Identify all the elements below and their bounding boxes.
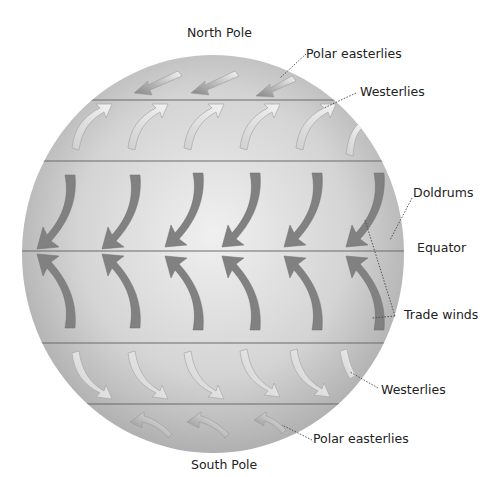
- wind-belts-diagram: [0, 0, 494, 477]
- doldrums-label: Doldrums: [413, 187, 473, 200]
- north-pole-label: North Pole: [187, 27, 252, 40]
- westerlies-north-label: Westerlies: [360, 86, 425, 99]
- polar-easterlies-north-label: Polar easterlies: [306, 48, 402, 61]
- equator-label: Equator: [417, 242, 466, 255]
- south-pole-label: South Pole: [191, 459, 257, 472]
- polar-easterlies-south-label: Polar easterlies: [313, 433, 409, 446]
- trade-winds-label: Trade winds: [404, 309, 478, 322]
- westerlies-south-label: Westerlies: [381, 384, 446, 397]
